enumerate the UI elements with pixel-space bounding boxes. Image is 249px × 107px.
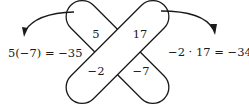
entry-top-right: 17: [133, 29, 148, 41]
entry-top-left: 5: [92, 29, 99, 41]
entry-bottom-right: −7: [133, 66, 150, 78]
right-product-label: −2 · 17 = −34: [168, 47, 249, 59]
entry-bottom-left: −2: [88, 66, 105, 78]
left-arrowhead-icon: [22, 27, 28, 37]
left-product-label: 5(−7) = −35: [8, 48, 82, 60]
right-arrowhead-icon: [210, 24, 217, 35]
